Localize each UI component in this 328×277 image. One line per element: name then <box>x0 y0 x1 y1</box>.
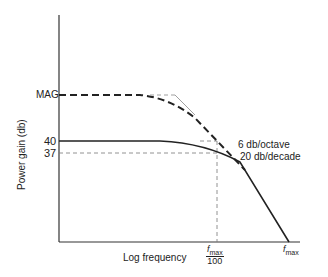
tick-mag: MAG <box>36 90 59 100</box>
annotation-6db-octave: 6 db/octave <box>238 140 290 150</box>
tick-40: 40 <box>44 136 56 147</box>
y-axis-label: Power gain (db) <box>16 119 27 190</box>
x-axis-label: Log frequency <box>123 253 186 263</box>
tick-fmax: fmax <box>283 245 299 256</box>
tick-fmax-over-100: fmax 100 <box>206 245 224 267</box>
mag-asymptote-slope <box>175 95 195 115</box>
tick-37: 37 <box>44 148 56 159</box>
annotation-20db-decade: 20 db/decade <box>240 152 301 162</box>
